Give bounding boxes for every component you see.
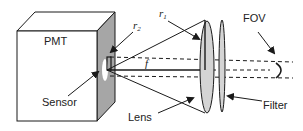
sensor-label: Sensor xyxy=(42,96,77,108)
filter-label: Filter xyxy=(263,99,288,111)
cone-top-line xyxy=(107,20,205,70)
pmt-optics-diagram: PMT Sensor Lens Filter FOV r2 r1 f xyxy=(0,0,303,131)
lens xyxy=(200,21,214,113)
fov-arc xyxy=(276,63,281,78)
lens-label: Lens xyxy=(128,111,152,123)
filter xyxy=(219,20,225,112)
pmt-label: PMT xyxy=(44,35,68,47)
filter-arrow xyxy=(228,96,262,101)
r2-label: r2 xyxy=(133,19,141,33)
r1-label: r1 xyxy=(159,7,167,21)
fov-arrow xyxy=(258,32,274,53)
fov-label: FOV xyxy=(243,12,266,24)
focal-length-label: f xyxy=(145,57,150,69)
